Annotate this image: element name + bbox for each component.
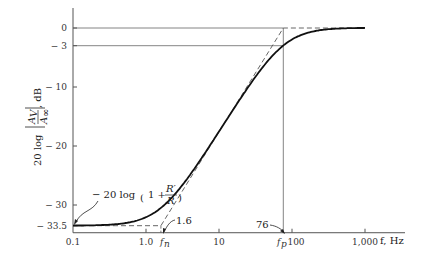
paren-left: ( xyxy=(140,192,144,203)
y-label-den: A xyxy=(38,117,49,125)
annotation-frac-den: R xyxy=(166,195,175,206)
x-axis-label: f, Hz xyxy=(380,235,404,246)
y-tick-label: − 3 xyxy=(51,41,67,51)
x-ticks: 0.11.0101001,000 xyxy=(66,229,378,247)
annotation-arrow xyxy=(76,201,98,222)
fp-arrowhead xyxy=(280,229,285,234)
bode-plot: 0.11.0101001,000 0− 3− 10− 20− 30− 33.5 … xyxy=(0,0,426,257)
fp-value-label: 76 xyxy=(256,219,269,230)
annotation-one: 1 + xyxy=(148,189,166,200)
y-label-num-sub: V xyxy=(28,108,39,117)
annotation-frac-num: R′ xyxy=(165,183,177,194)
fn-value-label: 1.6 xyxy=(176,215,192,226)
y-label-num: A xyxy=(26,117,37,125)
x-tick-label: 1.0 xyxy=(139,237,154,247)
fn-label: f n xyxy=(159,237,170,249)
fn-value-annotation: 1.6 xyxy=(163,215,192,234)
fp-label: f p xyxy=(276,237,287,249)
annotation-prefix: − 20 log xyxy=(92,189,136,200)
paren-right: ) xyxy=(178,192,182,203)
series xyxy=(73,28,365,233)
y-label-prefix: 20 log xyxy=(32,134,43,166)
fn-sub: n xyxy=(164,239,170,249)
x-tick-label: 100 xyxy=(287,237,304,247)
fp-sub: p xyxy=(281,239,287,249)
y-tick-label: − 33.5 xyxy=(37,221,68,231)
y-axis-label: 20 log A V A ∞ , dB xyxy=(25,88,51,166)
x-tick-label: 1,000 xyxy=(352,237,378,247)
y-label-den-sub: ∞ xyxy=(40,109,51,117)
fn-arrow xyxy=(164,220,175,232)
y-label-suffix: , dB xyxy=(32,88,43,108)
fp-value-annotation: 76 xyxy=(256,219,285,234)
x-tick-label: 0.1 xyxy=(66,237,80,247)
y-tick-label: − 30 xyxy=(45,200,67,210)
y-tick-label: − 10 xyxy=(45,82,67,92)
y-tick-label: 0 xyxy=(61,23,67,33)
y-tick-label: − 20 xyxy=(45,141,67,151)
x-tick-label: 10 xyxy=(213,237,225,247)
